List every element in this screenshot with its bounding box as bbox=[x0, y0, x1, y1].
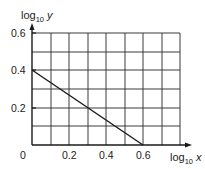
x-tick-label: 0.4 bbox=[99, 149, 114, 161]
y-axis-arrow-icon bbox=[30, 23, 35, 30]
y-tick-label: 0.6 bbox=[11, 27, 26, 39]
x-tick-label: 0.2 bbox=[62, 149, 77, 161]
x-axis-label: log10 x bbox=[170, 151, 202, 166]
y-tick-label: 0.2 bbox=[11, 102, 26, 114]
y-axis-label: log10 y bbox=[21, 9, 54, 24]
x-tick-label: 0 bbox=[20, 149, 26, 161]
grid bbox=[32, 33, 180, 145]
x-axis-arrow-icon bbox=[185, 143, 192, 148]
chart: 0.6 0.4 0.2 0 0.2 0.4 0.6 log10 y log10 … bbox=[0, 0, 205, 169]
x-tick-label: 0.6 bbox=[136, 149, 151, 161]
y-tick-label: 0.4 bbox=[11, 64, 26, 76]
